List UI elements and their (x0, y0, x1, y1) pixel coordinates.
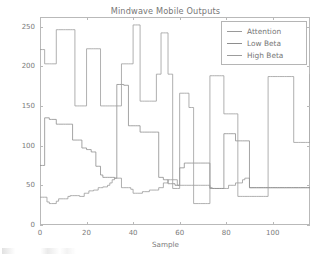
x-tick-label: 60 (175, 229, 184, 237)
y-tick-mark (307, 66, 310, 67)
x-tick-mark (180, 17, 181, 20)
x-tick-label: 100 (266, 229, 279, 237)
y-tick-label: 100 (22, 142, 35, 150)
x-tick-mark (87, 17, 88, 20)
y-tick-label: 250 (22, 23, 35, 31)
legend-swatch-high-beta (227, 55, 242, 56)
y-tick-mark (40, 185, 43, 186)
series-line-attention (40, 178, 310, 203)
y-tick-label: 0 (31, 221, 35, 229)
x-tick-mark (133, 222, 134, 225)
legend-swatch-attention (227, 31, 242, 32)
y-tick-mark (307, 185, 310, 186)
scan-artifact (2, 248, 76, 254)
x-tick-mark (133, 17, 134, 20)
chart-legend: Attention Low Beta High Beta (221, 21, 307, 65)
y-tick-mark (307, 225, 310, 226)
y-tick-mark (40, 106, 43, 107)
legend-label-attention: Attention (247, 27, 281, 36)
x-tick-label: 0 (38, 229, 42, 237)
legend-item-attention: Attention (225, 25, 302, 37)
legend-item-high-beta: High Beta (225, 49, 302, 61)
x-tick-mark (273, 17, 274, 20)
x-tick-label: 80 (222, 229, 231, 237)
y-tick-mark (40, 225, 43, 226)
legend-label-low-beta: Low Beta (247, 39, 281, 48)
legend-swatch-low-beta (227, 43, 242, 44)
y-tick-mark (40, 27, 43, 28)
chart-figure: Mindwave Mobile Outputs 0501001502002500… (0, 0, 331, 259)
x-tick-mark (40, 222, 41, 225)
x-tick-mark (226, 17, 227, 20)
y-tick-mark (307, 146, 310, 147)
x-tick-mark (180, 222, 181, 225)
y-tick-label: 50 (26, 181, 35, 189)
series-line-low-beta (40, 84, 310, 188)
y-tick-mark (40, 146, 43, 147)
legend-label-high-beta: High Beta (247, 51, 283, 60)
y-tick-label: 150 (22, 102, 35, 110)
y-tick-mark (40, 66, 43, 67)
y-tick-mark (307, 27, 310, 28)
y-tick-mark (307, 106, 310, 107)
y-tick-label: 200 (22, 62, 35, 70)
legend-item-low-beta: Low Beta (225, 37, 302, 49)
x-tick-mark (87, 222, 88, 225)
x-tick-label: 40 (129, 229, 138, 237)
chart-title: Mindwave Mobile Outputs (0, 6, 331, 16)
x-tick-mark (226, 222, 227, 225)
x-tick-label: 20 (82, 229, 91, 237)
x-tick-mark (40, 17, 41, 20)
x-tick-mark (273, 222, 274, 225)
